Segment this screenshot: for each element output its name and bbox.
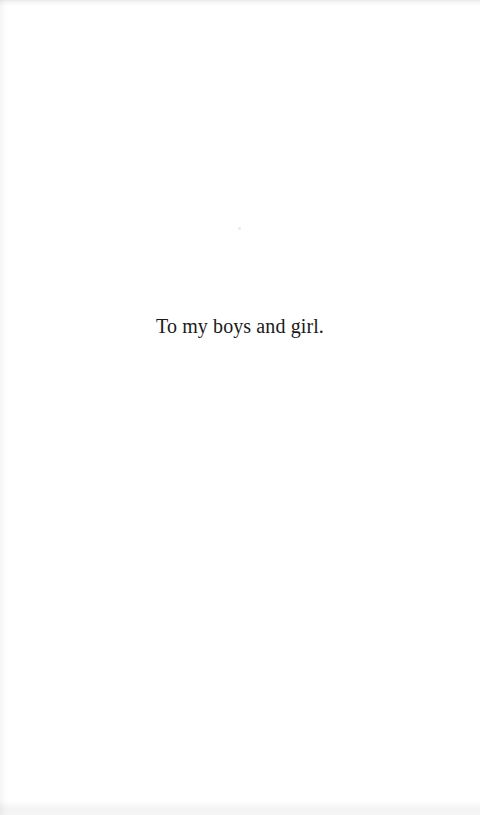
dedication-text: To my boys and girl. <box>0 314 480 338</box>
dedication-page: To my boys and girl. <box>0 0 480 815</box>
scan-artifact-top-edge <box>0 0 480 6</box>
scan-artifact-dust-speck <box>238 227 241 230</box>
scan-artifact-bottom-edge <box>0 801 480 815</box>
scan-artifact-left-gutter <box>0 0 9 815</box>
